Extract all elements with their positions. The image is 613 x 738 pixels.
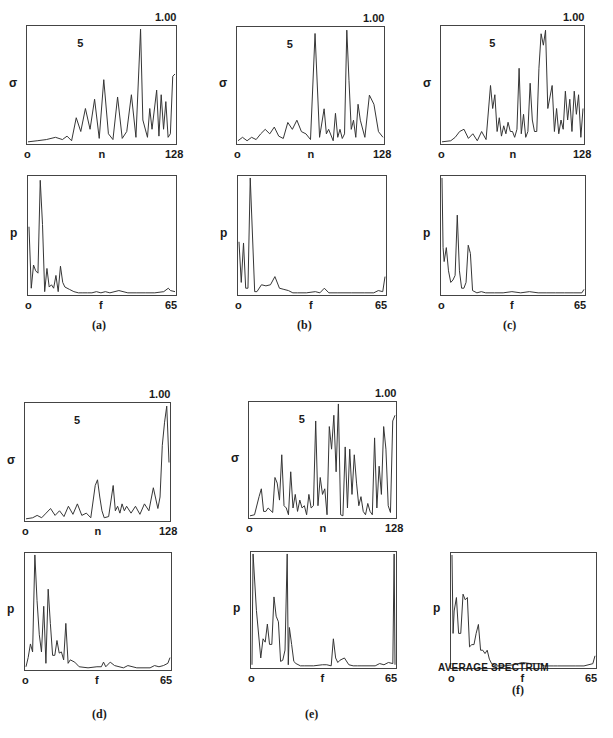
- panel-f-spectrum-plot: [450, 552, 597, 669]
- x-axis-min-label: o: [22, 526, 29, 537]
- x-axis-label: n: [320, 523, 327, 534]
- panel-d-spectrum-plot: [24, 552, 172, 671]
- y-axis-label: p: [10, 228, 17, 239]
- x-axis-max-label: 65: [375, 300, 387, 311]
- x-axis-max-label: 65: [585, 673, 597, 684]
- panel-c-spectrum-line: [442, 178, 584, 293]
- y-axis-label: p: [220, 228, 227, 239]
- panel-e-sigma-plot: [248, 401, 397, 519]
- x-axis-max-label: 128: [159, 526, 177, 537]
- panel-caption-d: (d): [92, 707, 107, 722]
- panel-b-sigma-line: [238, 30, 383, 141]
- x-axis-max-label: 65: [165, 300, 177, 311]
- x-axis-label: f: [309, 300, 313, 311]
- panel-f-spectrum-line: [452, 555, 595, 666]
- x-axis-label: n: [95, 526, 102, 537]
- window-annotation: 5: [287, 39, 293, 50]
- panel-a-spectrum-plot: [27, 175, 177, 296]
- panel-b-sigma-plot: [236, 26, 385, 145]
- x-axis-label: f: [321, 673, 325, 684]
- x-axis-label: n: [510, 149, 517, 160]
- panel-c-sigma-plot: [440, 25, 585, 145]
- y-axis-label: p: [433, 603, 440, 614]
- window-annotation: 5: [74, 415, 80, 426]
- panel-b-spectrum-plot: [237, 175, 387, 296]
- x-axis-max-label: 65: [160, 675, 172, 686]
- y-axis-label: σ: [7, 455, 15, 466]
- x-axis-max-label: 128: [385, 523, 403, 534]
- x-axis-max-label: 65: [385, 673, 397, 684]
- window-annotation: 5: [299, 414, 305, 425]
- y-axis-label: σ: [9, 78, 17, 89]
- panel-caption-b: (b): [297, 318, 312, 333]
- x-axis-max-label: 65: [574, 300, 586, 311]
- x-axis-label: f: [95, 675, 99, 686]
- panel-d-sigma-line: [26, 406, 169, 519]
- panel-b-spectrum-line: [239, 178, 385, 293]
- panel-a-spectrum-line: [29, 180, 175, 293]
- x-axis-max-label: 128: [373, 149, 391, 160]
- x-axis-min-label: o: [234, 149, 241, 160]
- x-axis-min-label: o: [24, 149, 31, 160]
- x-axis-label: f: [99, 300, 103, 311]
- y-axis-label: σ: [423, 78, 431, 89]
- y-axis-label: σ: [231, 453, 239, 464]
- x-axis-min-label: o: [235, 300, 242, 311]
- y-axis-max-label: 1.00: [375, 388, 396, 399]
- y-axis-max-label: 1.00: [563, 12, 584, 23]
- panel-d-spectrum-line: [26, 555, 170, 668]
- panel-d-sigma-plot: [24, 402, 171, 522]
- x-axis-max-label: 128: [165, 149, 183, 160]
- panel-c-sigma-line: [442, 30, 583, 142]
- y-axis-max-label: 1.00: [363, 13, 384, 24]
- x-axis-min-label: o: [22, 675, 29, 686]
- x-axis-min-label: o: [438, 300, 445, 311]
- panel-c-spectrum-plot: [440, 175, 586, 296]
- panel-a-sigma-line: [28, 29, 175, 142]
- panel-caption-f: (f): [512, 683, 524, 698]
- y-axis-max-label: 1.00: [149, 389, 170, 400]
- x-axis-label: n: [99, 149, 106, 160]
- panel-e-spectrum-plot: [250, 551, 397, 669]
- y-axis-label: p: [423, 228, 430, 239]
- panel-caption-e: (e): [305, 707, 318, 722]
- window-annotation: 5: [489, 38, 495, 49]
- panel-caption-c: (c): [503, 318, 516, 333]
- y-axis-max-label: 1.00: [155, 12, 176, 23]
- x-axis-min-label: o: [25, 300, 32, 311]
- panel-caption-a: (a): [92, 318, 106, 333]
- y-axis-label: σ: [219, 78, 227, 89]
- average-spectrum-title: AVERAGE SPECTRUM: [438, 662, 549, 673]
- y-axis-label: p: [7, 604, 14, 615]
- x-axis-min-label: o: [246, 523, 253, 534]
- x-axis-max-label: 128: [573, 149, 591, 160]
- panel-a-sigma-plot: [26, 25, 177, 145]
- window-annotation: 5: [77, 38, 83, 49]
- panel-e-spectrum-line: [252, 554, 395, 666]
- x-axis-label: n: [308, 149, 315, 160]
- y-axis-label: p: [233, 603, 240, 614]
- x-axis-label: f: [510, 300, 514, 311]
- x-axis-min-label: o: [448, 673, 455, 684]
- panel-e-sigma-line: [250, 404, 395, 516]
- x-axis-min-label: o: [438, 149, 445, 160]
- x-axis-min-label: o: [248, 673, 255, 684]
